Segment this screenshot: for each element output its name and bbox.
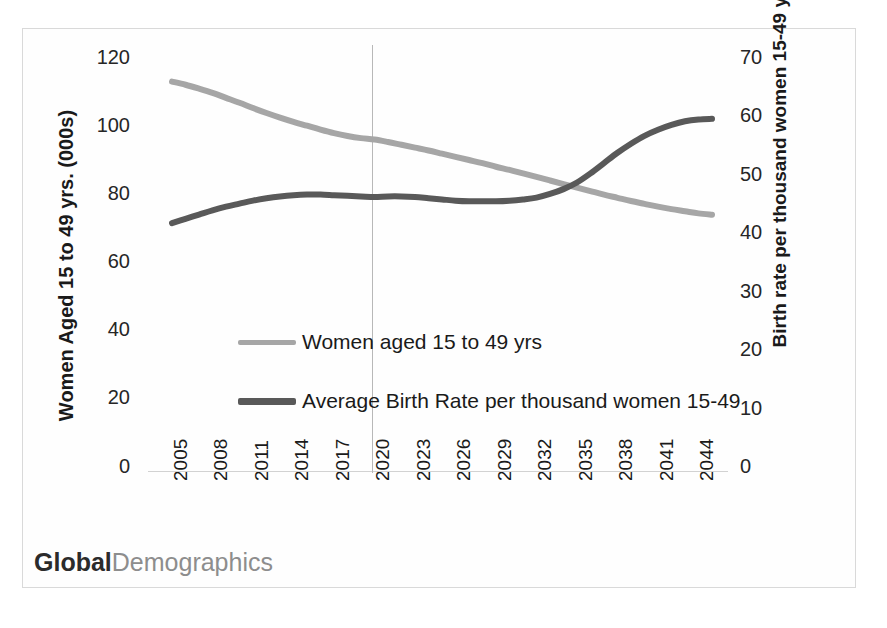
legend-item-average-birth-rate[interactable]: Average Birth Rate per thousand women 15… bbox=[238, 389, 741, 413]
y-axis-right-tick-60: 60 bbox=[740, 104, 792, 127]
y-axis-left-tick-0: 0 bbox=[78, 455, 130, 478]
watermark-light-text: Demographics bbox=[112, 548, 273, 576]
y-axis-right-tick-50: 50 bbox=[740, 163, 792, 186]
line-series-average-birth-rate bbox=[172, 119, 712, 223]
y-axis-right-tick-0: 0 bbox=[740, 455, 792, 478]
watermark-bold-text: Global bbox=[34, 548, 112, 576]
y-axis-right-tick-40: 40 bbox=[740, 221, 792, 244]
legend-item-women-aged-15-49[interactable]: Women aged 15 to 49 yrs bbox=[238, 330, 542, 354]
y-axis-right-tick-20: 20 bbox=[740, 338, 792, 361]
y-axis-left-tick-20: 20 bbox=[78, 386, 130, 409]
y-axis-right-tick-70: 70 bbox=[740, 46, 792, 69]
chart-page: Women Aged 15 to 49 yrs. (000s) Birth ra… bbox=[0, 0, 887, 628]
legend-swatch-average-birth-rate bbox=[238, 398, 296, 405]
line-series-women-aged-15-49 bbox=[172, 82, 712, 215]
y-axis-left-title: Women Aged 15 to 49 yrs. (000s) bbox=[55, 66, 78, 466]
y-axis-left-tick-100: 100 bbox=[78, 114, 130, 137]
y-axis-right-tick-30: 30 bbox=[740, 280, 792, 303]
watermark-globaldemographics: GlobalDemographics bbox=[34, 548, 273, 577]
y-axis-right-tick-10: 10 bbox=[740, 397, 792, 420]
legend-swatch-women-aged-15-49 bbox=[238, 340, 296, 345]
y-axis-left-tick-80: 80 bbox=[78, 182, 130, 205]
y-axis-left-tick-40: 40 bbox=[78, 318, 130, 341]
y-axis-left-tick-120: 120 bbox=[78, 46, 130, 69]
legend-label-average-birth-rate: Average Birth Rate per thousand women 15… bbox=[302, 389, 741, 413]
y-axis-left-tick-60: 60 bbox=[78, 250, 130, 273]
legend-label-women-aged-15-49: Women aged 15 to 49 yrs bbox=[302, 330, 542, 354]
